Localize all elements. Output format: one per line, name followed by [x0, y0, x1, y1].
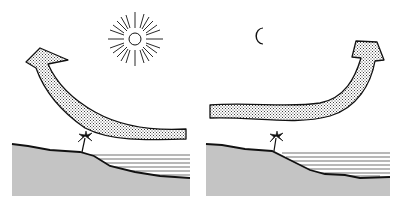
land-terrain — [206, 144, 390, 196]
night-panel — [206, 28, 390, 196]
palm-tree-icon — [270, 131, 283, 151]
crescent-moon-icon — [256, 28, 263, 44]
palm-tree-icon — [78, 131, 92, 152]
wind-arrow-icon — [26, 48, 186, 140]
day-panel — [12, 12, 190, 196]
sun-icon — [108, 12, 163, 66]
wind-arrow-icon — [210, 41, 384, 121]
land-terrain — [12, 144, 190, 196]
